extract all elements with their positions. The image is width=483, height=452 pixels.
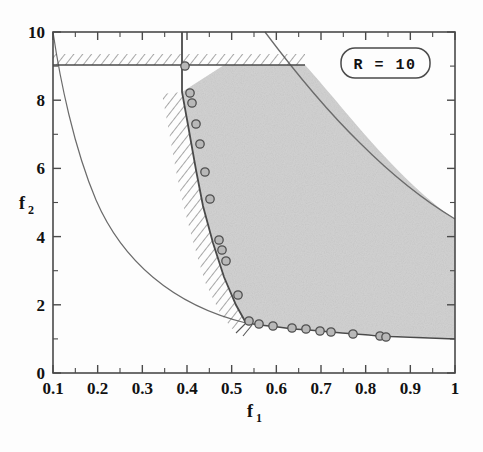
tick-label: 0.4 — [176, 379, 198, 398]
tick-label: 10 — [28, 23, 45, 42]
annotation-r-value: R = 10 — [341, 48, 430, 78]
tick-label: 0.6 — [266, 379, 287, 398]
tick-label: 6 — [37, 159, 46, 178]
x-axis-title: f 1 — [247, 401, 262, 425]
x-axis-title-text: f — [247, 401, 254, 421]
tick-label: 0.1 — [42, 379, 63, 398]
tick-label: 8 — [37, 91, 46, 110]
tick-label: 0.3 — [132, 379, 153, 398]
figure-container: 0.10.20.30.40.50.60.70.80.91 0246810 f 1… — [0, 0, 483, 452]
annotation-label: R = 10 — [353, 57, 416, 74]
tick-label: 1 — [451, 379, 460, 398]
tick-label: 0 — [37, 364, 46, 383]
tick-label: 0.7 — [310, 379, 332, 398]
tick-label: 0.5 — [221, 379, 242, 398]
x-axis-tick-labels: 0.10.20.30.40.50.60.70.80.91 — [42, 379, 459, 398]
chart-canvas: 0.10.20.30.40.50.60.70.80.91 0246810 f 1… — [0, 0, 483, 452]
upper-bound-hatched-line — [53, 54, 305, 65]
tick-label: 0.8 — [355, 379, 376, 398]
tick-label: 0.2 — [87, 379, 108, 398]
tick-label: 4 — [37, 228, 46, 247]
tick-label: 0.9 — [400, 379, 421, 398]
y-axis-title: f 2 — [19, 193, 34, 217]
y-axis-title-subscript: 2 — [28, 203, 34, 217]
y-axis-title-text: f — [19, 193, 26, 213]
tick-label: 2 — [37, 296, 46, 315]
x-axis-title-subscript: 1 — [256, 411, 262, 425]
